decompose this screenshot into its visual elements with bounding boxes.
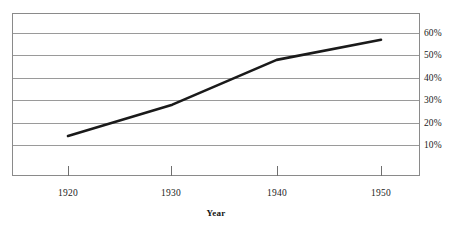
- xtick-mark-1940: [277, 166, 278, 176]
- xtick-mark-1920: [68, 166, 69, 176]
- line-chart: 60% 50% 40% 30% 20% 10% 1920 1930 1940 1…: [0, 0, 471, 230]
- gridline-60: [13, 33, 419, 34]
- xtick-label-1950: 1950: [356, 188, 406, 199]
- xtick-label-1930: 1930: [146, 188, 196, 199]
- ytick-label-10: 10%: [424, 140, 442, 150]
- x-axis-title: Year: [12, 208, 420, 218]
- xtick-label-1920: 1920: [43, 188, 93, 199]
- gridline-50: [13, 55, 419, 56]
- xtick-label-1940: 1940: [252, 188, 302, 199]
- ytick-label-40: 40%: [424, 73, 442, 83]
- xtick-mark-1950: [381, 166, 382, 176]
- gridline-10: [13, 145, 419, 146]
- gridline-40: [13, 78, 419, 79]
- ytick-label-60: 60%: [424, 28, 442, 38]
- xtick-mark-1930: [171, 166, 172, 176]
- gridline-20: [13, 123, 419, 124]
- ytick-label-20: 20%: [424, 118, 442, 128]
- ytick-label-50: 50%: [424, 50, 442, 60]
- ytick-label-30: 30%: [424, 95, 442, 105]
- gridline-30: [13, 100, 419, 101]
- plot-area: [12, 13, 420, 176]
